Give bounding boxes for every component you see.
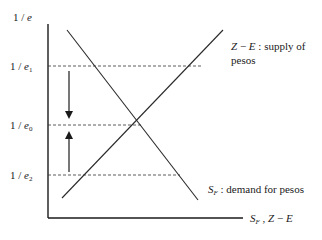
up-arrow-icon xyxy=(65,131,73,172)
down-arrow-icon xyxy=(65,71,73,119)
exchange-rate-diagram: 1 / e 1 / e1 1 / e0 1 / e2 Z − E : suppl… xyxy=(0,0,322,240)
y-axis-label: 1 / e xyxy=(13,11,32,23)
demand-label: SF : demand for pesos xyxy=(208,183,304,197)
level-label-e1: 1 / e1 xyxy=(10,60,33,74)
level-label-e0: 1 / e0 xyxy=(10,119,33,133)
level-label-e2: 1 / e2 xyxy=(10,169,33,183)
x-axis-label: SF , Z − E xyxy=(250,212,293,226)
supply-label-line2: pesos xyxy=(231,54,255,66)
supply-label: Z − E : supply of xyxy=(231,40,306,52)
demand-curve xyxy=(67,30,198,200)
